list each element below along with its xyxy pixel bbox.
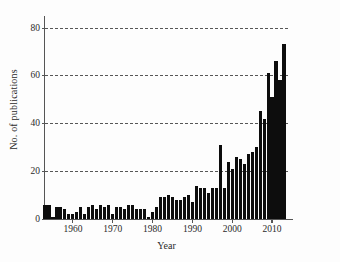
bar-series xyxy=(45,18,288,219)
bar xyxy=(187,195,190,219)
bar xyxy=(79,207,82,219)
bar xyxy=(191,202,194,219)
bar xyxy=(207,193,210,219)
bar xyxy=(127,205,130,219)
x-tick-label: 2010 xyxy=(263,224,282,234)
bar xyxy=(247,154,250,219)
bar xyxy=(147,217,150,219)
x-tick-label: 1970 xyxy=(103,224,122,234)
bar xyxy=(143,209,146,219)
bar xyxy=(203,188,206,219)
bar xyxy=(270,97,273,219)
bar xyxy=(179,200,182,219)
x-axis-label: Year xyxy=(45,240,288,251)
bar xyxy=(227,162,230,219)
bar xyxy=(239,159,242,219)
bar xyxy=(119,207,122,219)
x-tick-mark xyxy=(192,219,193,223)
bar xyxy=(59,207,62,219)
x-tick-label: 1960 xyxy=(63,224,82,234)
bar xyxy=(71,214,74,219)
bar xyxy=(235,157,238,219)
bar xyxy=(263,119,266,220)
bar xyxy=(167,195,170,219)
bar xyxy=(255,147,258,219)
bar xyxy=(139,209,142,219)
bar xyxy=(103,207,106,219)
bar xyxy=(171,197,174,219)
bar xyxy=(151,212,154,219)
bar xyxy=(215,188,218,219)
y-tick-label: 0 xyxy=(35,214,40,224)
publications-bar-chart: No. of publications 020406080 1960197019… xyxy=(0,0,340,262)
bar xyxy=(55,207,58,219)
bar xyxy=(231,169,234,219)
bar xyxy=(195,186,198,220)
plot-area: 020406080 196019701980199020002010 xyxy=(45,18,288,219)
x-tick-mark xyxy=(112,219,113,223)
bar xyxy=(135,209,138,219)
bar xyxy=(219,145,222,219)
bar xyxy=(99,205,102,219)
bar xyxy=(75,212,78,219)
y-axis-label: No. of publications xyxy=(2,0,24,219)
bar xyxy=(83,214,86,219)
bar xyxy=(63,209,66,219)
bar xyxy=(111,214,114,219)
bar xyxy=(251,152,254,219)
bar xyxy=(199,188,202,219)
bar xyxy=(51,217,54,219)
y-tick-label: 80 xyxy=(31,23,41,33)
bar xyxy=(91,205,94,219)
x-tick-mark xyxy=(72,219,73,223)
bar xyxy=(131,205,134,219)
x-tick-mark xyxy=(271,219,272,223)
x-tick-label: 1980 xyxy=(143,224,162,234)
bar xyxy=(278,80,281,219)
bar xyxy=(274,61,277,219)
y-tick-label: 40 xyxy=(31,118,41,128)
bar xyxy=(259,111,262,219)
bar xyxy=(155,207,158,219)
bar xyxy=(115,207,118,219)
x-axis-spine xyxy=(44,219,293,220)
bar xyxy=(163,197,166,219)
x-tick-mark xyxy=(152,219,153,223)
bar xyxy=(67,214,70,219)
x-tick-mark xyxy=(232,219,233,223)
y-tick-mark xyxy=(42,219,45,220)
y-axis-label-text: No. of publications xyxy=(8,69,19,150)
y-tick-label: 20 xyxy=(31,166,41,176)
bar xyxy=(267,73,270,219)
bar xyxy=(211,188,214,219)
bar xyxy=(223,188,226,219)
bar xyxy=(282,44,285,219)
bar xyxy=(123,209,126,219)
bar xyxy=(95,209,98,219)
y-tick-label: 60 xyxy=(31,70,41,80)
bar xyxy=(183,197,186,219)
bar xyxy=(43,205,46,219)
bar xyxy=(159,197,162,219)
x-tick-label: 1990 xyxy=(183,224,202,234)
bar xyxy=(243,164,246,219)
bar xyxy=(47,205,50,219)
bar xyxy=(175,200,178,219)
bar xyxy=(87,207,90,219)
bar xyxy=(107,205,110,219)
x-tick-label: 2000 xyxy=(223,224,242,234)
